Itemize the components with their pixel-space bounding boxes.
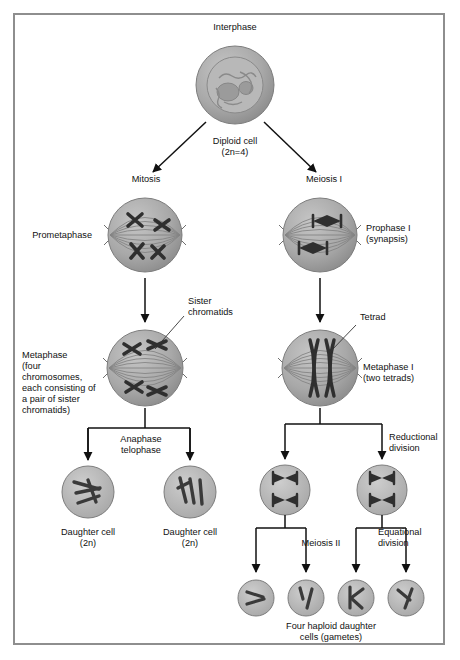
label-daughter-right-line2: (2n) bbox=[147, 538, 233, 549]
cell-prophase-i bbox=[279, 198, 361, 272]
label-prometaphase: Prometaphase bbox=[16, 230, 92, 241]
label-anaphase-line1: Anaphase bbox=[106, 434, 176, 445]
label-prophase-i: Prophase I bbox=[366, 223, 452, 234]
label-equational-line1: Equational bbox=[378, 527, 448, 538]
label-anaphase-line2: telophase bbox=[106, 445, 176, 456]
label-metaphase-line2: (four bbox=[22, 361, 118, 372]
label-sister-chromatids-line2: chromatids bbox=[188, 307, 264, 318]
cell-gamete-3 bbox=[338, 580, 374, 616]
cell-daughter-left bbox=[62, 466, 114, 518]
label-daughter-left-line1: Daughter cell bbox=[45, 527, 131, 538]
label-reductional-line2: division bbox=[389, 443, 459, 454]
label-interphase: Interphase bbox=[185, 22, 285, 33]
cell-interphase bbox=[196, 46, 274, 124]
label-diploid-ploidy: (2n=4) bbox=[185, 147, 285, 158]
label-gametes-line1: Four haploid daughter bbox=[246, 621, 416, 632]
cell-gamete-4 bbox=[388, 580, 424, 616]
label-prophase-i-sub: (synapsis) bbox=[366, 234, 452, 245]
bracket-reductional-division bbox=[285, 408, 382, 424]
cell-daughter-right bbox=[164, 466, 216, 518]
label-gametes-line2: cells (gametes) bbox=[246, 632, 416, 643]
label-metaphase-line1: Metaphase bbox=[22, 350, 118, 361]
label-metaphase-line3: chromosomes, bbox=[22, 372, 118, 383]
label-metaphase-i: Metaphase I bbox=[363, 362, 453, 373]
cell-gamete-1 bbox=[238, 580, 274, 616]
cell-gamete-2 bbox=[288, 580, 324, 616]
cell-prometaphase bbox=[104, 198, 186, 272]
label-metaphase-line5: a pair of sister bbox=[22, 394, 122, 405]
cell-metaphase-i bbox=[278, 330, 362, 406]
label-daughter-left-line2: (2n) bbox=[45, 538, 131, 549]
label-equational-line2: division bbox=[378, 538, 448, 549]
label-meiosis-ii: Meiosis II bbox=[288, 538, 354, 549]
diagram-canvas bbox=[0, 0, 460, 660]
label-meiosis-i: Meiosis I bbox=[288, 174, 360, 185]
label-daughter-right-line1: Daughter cell bbox=[147, 527, 233, 538]
cell-meiosis2-right bbox=[357, 465, 407, 515]
label-reductional-line1: Reductional bbox=[389, 432, 459, 443]
label-metaphase-line6: chromatids) bbox=[22, 405, 118, 416]
cell-meiosis2-left bbox=[260, 465, 310, 515]
label-diploid-cell: Diploid cell bbox=[185, 136, 285, 147]
label-metaphase-i-sub: (two tetrads) bbox=[363, 373, 453, 384]
label-sister-chromatids-line1: Sister bbox=[188, 296, 258, 307]
label-tetrad: Tetrad bbox=[360, 312, 420, 323]
label-metaphase-line4: each consisting of bbox=[22, 383, 128, 394]
label-mitosis: Mitosis bbox=[110, 174, 182, 185]
